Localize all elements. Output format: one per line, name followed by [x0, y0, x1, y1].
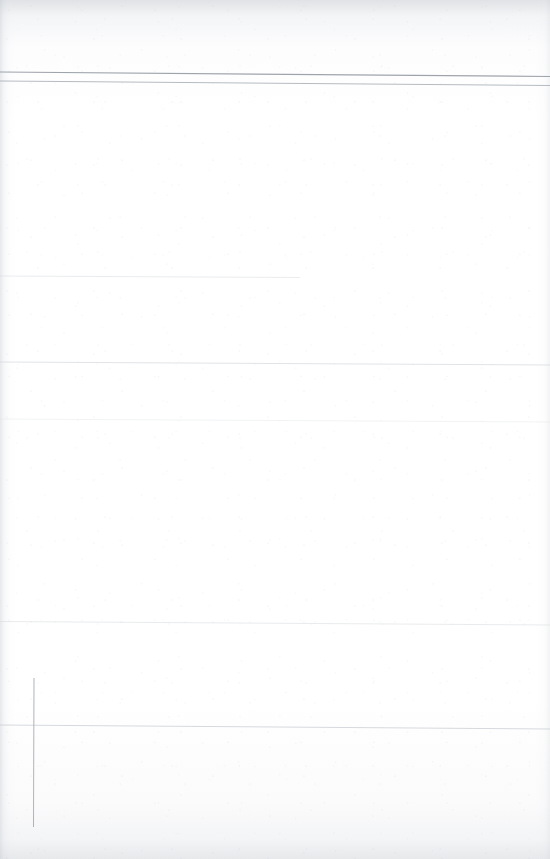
scanned-page: [0, 0, 550, 859]
page-edge-shadow-bottom: [0, 805, 550, 859]
page-edge-shadow-right: [536, 0, 550, 859]
page-edge-shadow-top: [0, 0, 550, 46]
paper-background: [0, 0, 550, 859]
page-edge-shadow-left: [0, 0, 16, 859]
